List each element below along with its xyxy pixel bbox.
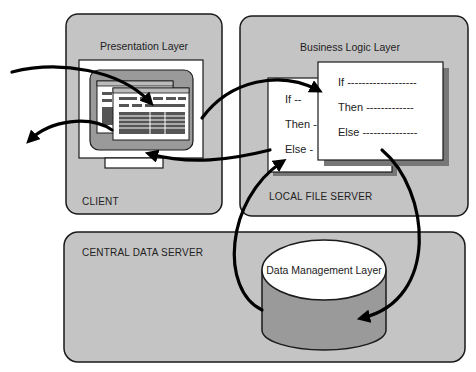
front-card-if: If ------------------- — [338, 76, 417, 88]
front-card-then: Then ------------- — [338, 101, 414, 113]
back-card-if: If -- — [285, 93, 302, 105]
three-tier-architecture-diagram: Presentation Layer CLIENT — [0, 0, 476, 372]
database-icon: Data Management Layer — [262, 240, 386, 350]
local-file-server-caption: LOCAL FILE SERVER — [269, 191, 372, 202]
central-data-server-caption: CENTRAL DATA SERVER — [82, 247, 203, 258]
client-panel: Presentation Layer CLIENT — [66, 14, 222, 214]
presentation-layer-label: Presentation Layer — [100, 40, 189, 52]
data-management-layer-label: Data Management Layer — [266, 264, 382, 276]
monitor-icon — [79, 60, 203, 168]
back-card-then: Then - — [285, 118, 317, 130]
central-data-server-panel: CENTRAL DATA SERVER Data Management Laye… — [64, 232, 465, 362]
client-caption: CLIENT — [82, 196, 119, 207]
business-logic-layer-label: Business Logic Layer — [300, 41, 400, 53]
front-card-else: Else --------------- — [338, 126, 418, 138]
local-file-server-panel: Business Logic Layer LOCAL FILE SERVER I… — [240, 16, 468, 216]
back-card-else: Else - — [285, 143, 313, 155]
